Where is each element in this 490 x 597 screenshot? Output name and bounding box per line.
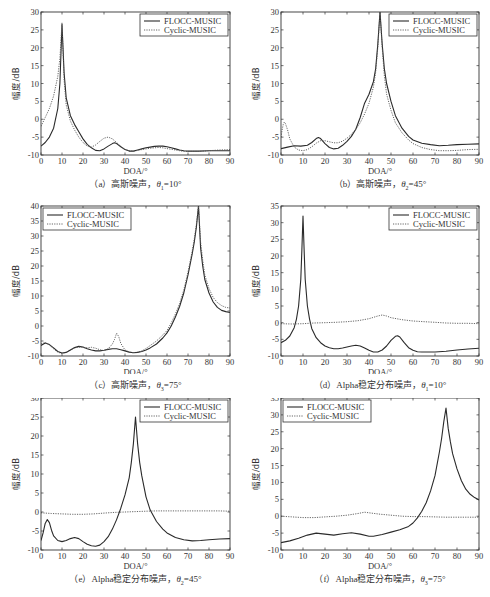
chart-panel-b: 0102030405060708090-10-5051015202530DOA/… xyxy=(245,0,490,200)
subfigure-caption: （e）Alpha稳定分布噪声，θ2=45° xyxy=(69,572,201,586)
flocc-music-line xyxy=(281,216,479,352)
y-tick-label: -10 xyxy=(268,545,279,555)
plot-svg: 0102030405060708090-10-505101520253035DO… xyxy=(245,398,490,574)
y-tick-label: 0 xyxy=(35,507,39,517)
x-tick-label: 20 xyxy=(321,551,330,561)
x-tick-label: 30 xyxy=(343,357,352,367)
chart-panel-d: 0102030405060708090-10-505101520253035DO… xyxy=(245,198,490,398)
x-tick-label: 10 xyxy=(58,357,67,367)
legend-entry-label: Cyclic-MUSIC xyxy=(67,219,119,229)
y-tick-label: 0 xyxy=(275,318,279,328)
plot-svg: 0102030405060708090-10-5051015202530DOA/… xyxy=(245,0,490,176)
x-tick-label: 50 xyxy=(387,551,396,561)
x-tick-label: 40 xyxy=(365,551,374,561)
legend-entry-label: Cyclic-MUSIC xyxy=(413,25,465,35)
x-tick-label: 0 xyxy=(39,551,43,561)
y-tick-label: 5 xyxy=(275,96,279,106)
y-tick-label: 25 xyxy=(271,234,280,244)
x-tick-label: 60 xyxy=(409,156,418,166)
legend: FLOCC-MUSICCyclic-MUSIC xyxy=(283,400,371,422)
x-tick-label: 90 xyxy=(475,357,484,367)
y-tick-label: 10 xyxy=(271,477,280,487)
x-tick-label: 70 xyxy=(431,551,440,561)
caption-value: =10° xyxy=(429,380,447,390)
y-tick-label: 15 xyxy=(31,276,40,286)
chart-panel-f: 0102030405060708090-10-505101520253035DO… xyxy=(245,398,490,597)
x-tick-label: 60 xyxy=(409,357,418,367)
y-axis-label: 幅度/dB xyxy=(251,458,261,490)
x-tick-label: 20 xyxy=(79,551,88,561)
x-tick-label: 40 xyxy=(365,357,374,367)
y-axis-label: 幅度/dB xyxy=(251,265,261,297)
y-tick-label: 20 xyxy=(31,43,40,53)
y-tick-label: 30 xyxy=(31,231,40,241)
x-tick-label: 80 xyxy=(205,156,214,166)
x-tick-label: 50 xyxy=(387,156,396,166)
x-tick-label: 70 xyxy=(431,156,440,166)
x-tick-label: 50 xyxy=(142,156,151,166)
subfigure-caption: （a）高斯噪声，θ1=10° xyxy=(89,177,181,191)
x-tick-label: 90 xyxy=(226,551,235,561)
caption-value: =45° xyxy=(184,574,202,584)
x-tick-label: 70 xyxy=(431,357,440,367)
y-tick-label: 20 xyxy=(271,43,280,53)
y-tick-label: 5 xyxy=(275,494,279,504)
x-axis-label: DOA/° xyxy=(123,367,147,374)
y-tick-label: -10 xyxy=(268,351,279,361)
chart-panel-c: 0102030405060708090-10-50510152025303540… xyxy=(0,198,245,398)
plot-svg: 0102030405060708090-10-5051015202530DOA/… xyxy=(0,398,245,574)
y-tick-label: 25 xyxy=(271,427,280,437)
x-tick-label: 80 xyxy=(453,357,462,367)
x-tick-label: 30 xyxy=(100,156,109,166)
cyclic-music-line xyxy=(281,512,479,517)
y-tick-label: 20 xyxy=(31,431,40,441)
y-tick-label: 40 xyxy=(31,201,40,211)
subfigure-caption: （c）高斯噪声，θ3=75° xyxy=(89,378,181,392)
y-tick-label: 5 xyxy=(35,96,39,106)
subfigure-caption: （b）高斯噪声，θ2=45° xyxy=(334,177,427,191)
legend: FLOCC-MUSICCyclic-MUSIC xyxy=(389,14,477,36)
y-tick-label: 10 xyxy=(271,79,280,89)
caption-prefix: （d）Alpha稳定分布噪声， xyxy=(314,380,422,390)
x-tick-label: 20 xyxy=(321,156,330,166)
y-tick-label: -10 xyxy=(28,150,39,160)
y-tick-label: 10 xyxy=(31,79,40,89)
legend-entry-label: Cyclic-MUSIC xyxy=(413,219,465,229)
chart-panel-e: 0102030405060708090-10-5051015202530DOA/… xyxy=(0,398,245,597)
y-tick-label: 0 xyxy=(275,114,279,124)
plot-svg: 0102030405060708090-10-50510152025303540… xyxy=(0,198,245,374)
caption-value: =10° xyxy=(164,179,182,189)
x-tick-label: 40 xyxy=(121,357,130,367)
plot-svg: 0102030405060708090-10-505101520253035DO… xyxy=(245,198,490,374)
x-tick-label: 30 xyxy=(343,156,352,166)
flocc-music-line xyxy=(41,25,230,152)
x-tick-label: 40 xyxy=(365,156,374,166)
y-tick-label: 5 xyxy=(275,301,279,311)
x-tick-label: 30 xyxy=(100,357,109,367)
plot-svg: 0102030405060708090-10-5051015202530DOA/… xyxy=(0,0,245,176)
x-tick-label: 10 xyxy=(58,551,67,561)
y-tick-label: 20 xyxy=(271,444,280,454)
y-tick-label: 35 xyxy=(271,201,280,211)
caption-prefix: （a）高斯噪声， xyxy=(89,179,156,189)
y-tick-label: 35 xyxy=(31,216,40,226)
y-tick-label: 5 xyxy=(35,306,39,316)
x-tick-label: 60 xyxy=(163,357,172,367)
y-tick-label: -5 xyxy=(272,132,279,142)
x-tick-label: 60 xyxy=(163,156,172,166)
caption-prefix: （e）Alpha稳定分布噪声， xyxy=(69,574,176,584)
y-tick-label: 20 xyxy=(271,251,280,261)
y-tick-label: 0 xyxy=(35,321,39,331)
x-tick-label: 90 xyxy=(475,551,484,561)
legend-entry-label: Cyclic-MUSIC xyxy=(307,411,359,421)
y-tick-label: 10 xyxy=(271,284,280,294)
x-tick-label: 10 xyxy=(299,357,308,367)
x-tick-label: 10 xyxy=(58,156,67,166)
y-tick-label: 10 xyxy=(31,291,40,301)
y-tick-label: 25 xyxy=(31,246,40,256)
y-tick-label: 25 xyxy=(271,25,280,35)
x-tick-label: 90 xyxy=(226,357,235,367)
caption-value: =75° xyxy=(428,574,446,584)
y-tick-label: 30 xyxy=(31,398,40,403)
flocc-music-line xyxy=(281,408,479,542)
